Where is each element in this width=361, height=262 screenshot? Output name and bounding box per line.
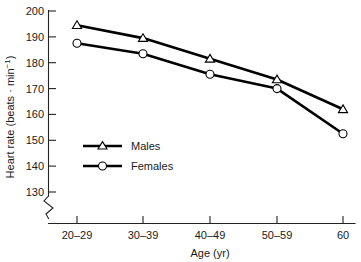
x-tick-label-30-39: 30–39 xyxy=(128,229,159,241)
y-tick-label-190: 190 xyxy=(26,31,44,43)
females-point-50-59 xyxy=(273,85,281,93)
y-tick-label-140: 140 xyxy=(26,160,44,172)
legend: Males Females xyxy=(83,140,174,172)
females-point-30-39 xyxy=(139,50,147,58)
x-axis-tick-labels: 20–29 30–39 40–49 50–59 60 xyxy=(62,229,349,241)
females-point-60 xyxy=(339,130,347,138)
legend-females-label: Females xyxy=(131,160,174,172)
y-axis-title-close: ) xyxy=(4,56,16,60)
chart-container: 200 190 180 170 160 150 140 130 20–29 30… xyxy=(0,0,361,262)
y-tick-label-150: 150 xyxy=(26,134,44,146)
legend-item-males: Males xyxy=(83,140,161,152)
x-axis-ticks xyxy=(77,216,343,224)
x-tick-label-40-49: 40–49 xyxy=(195,229,226,241)
y-tick-label-160: 160 xyxy=(26,108,44,120)
y-tick-label-130: 130 xyxy=(26,186,44,198)
y-axis-break-icon xyxy=(44,196,53,219)
series-males-line xyxy=(77,25,343,109)
x-tick-label-60: 60 xyxy=(337,229,349,241)
x-tick-label-50-59: 50–59 xyxy=(262,229,293,241)
females-point-40-49 xyxy=(206,70,214,78)
legend-females-circle-icon xyxy=(99,162,107,170)
line-chart: 200 190 180 170 160 150 140 130 20–29 30… xyxy=(0,0,361,262)
series-males xyxy=(72,21,347,113)
females-point-20-29 xyxy=(73,39,81,47)
y-axis-ticks xyxy=(49,11,57,192)
y-tick-label-200: 200 xyxy=(26,5,44,17)
y-axis-title: Heart rate (beats · min−1) xyxy=(3,56,16,179)
legend-males-label: Males xyxy=(131,140,161,152)
y-axis-tick-labels: 200 190 180 170 160 150 140 130 xyxy=(26,5,44,198)
series-males-markers xyxy=(72,21,347,113)
x-tick-label-20-29: 20–29 xyxy=(62,229,93,241)
y-tick-label-170: 170 xyxy=(26,83,44,95)
legend-item-females: Females xyxy=(83,160,174,172)
y-axis-title-main: Heart rate (beats · min xyxy=(4,68,16,178)
x-axis-title: Age (yr) xyxy=(190,247,229,259)
y-tick-label-180: 180 xyxy=(26,57,44,69)
